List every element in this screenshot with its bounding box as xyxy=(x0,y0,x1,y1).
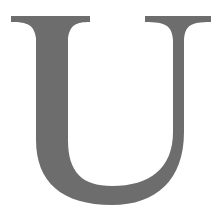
letter-u-glyph: U xyxy=(0,0,218,220)
letter-u-icon xyxy=(0,0,218,220)
